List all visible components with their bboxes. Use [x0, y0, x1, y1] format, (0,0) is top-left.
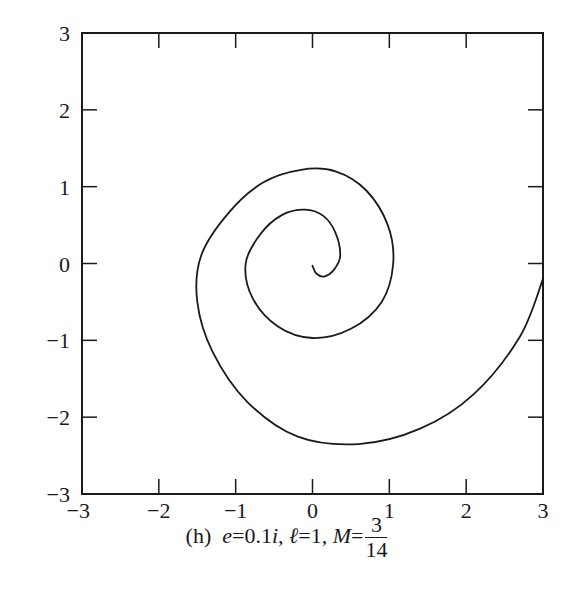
- caption-m-fraction: 314: [365, 514, 387, 561]
- y-tick-label: 2: [59, 98, 70, 123]
- caption-e-value: 0.1: [244, 523, 272, 548]
- y-tick-label: −2: [47, 405, 70, 430]
- y-tick-labels: 3210−1−2−3: [47, 21, 70, 507]
- caption-e-var: e: [222, 523, 232, 548]
- y-tick-label: −1: [47, 328, 70, 353]
- spiral-curve: [196, 168, 543, 444]
- fraction-numerator: 3: [365, 514, 387, 538]
- fraction-denominator: 14: [365, 538, 387, 561]
- axis-ticks: [82, 33, 543, 494]
- caption-l-var: ℓ: [289, 523, 298, 548]
- caption-m-var: M: [333, 523, 351, 548]
- y-tick-label: 1: [59, 175, 70, 200]
- y-tick-label: −3: [47, 482, 70, 507]
- caption-l-value: 1: [311, 523, 322, 548]
- y-tick-label: 3: [59, 21, 70, 46]
- plot-frame: [82, 33, 543, 494]
- figure-caption: (h) e=0.1i, ℓ=1, M=314: [0, 514, 573, 561]
- caption-label: (h): [186, 523, 212, 548]
- y-tick-label: 0: [59, 252, 70, 277]
